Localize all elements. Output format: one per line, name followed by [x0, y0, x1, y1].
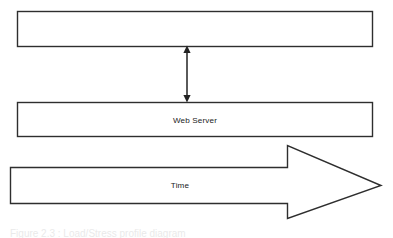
arrow-head-down-icon	[183, 95, 190, 103]
time-label: Time	[171, 181, 190, 190]
top-box	[18, 12, 373, 47]
vertical-double-arrow	[183, 46, 190, 103]
diagram-canvas: Web Server Time	[0, 0, 393, 238]
time-block-arrow	[11, 146, 382, 219]
figure-root: Web Server Time Figure 2.3 : Load/Stress…	[0, 0, 393, 238]
web-server-label: Web Server	[173, 116, 217, 125]
